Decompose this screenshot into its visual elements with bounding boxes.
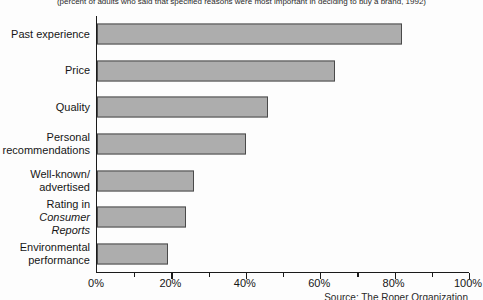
category-label: Personalrecommendations xyxy=(0,126,90,163)
bar-row xyxy=(97,235,469,272)
category-label: Environmentalperformance xyxy=(0,235,90,272)
bar xyxy=(97,60,335,81)
category-label: Rating inConsumer Reports xyxy=(0,199,90,236)
category-label: Price xyxy=(0,53,90,90)
category-label: Quality xyxy=(0,89,90,126)
bar-row xyxy=(97,89,469,126)
plot-area xyxy=(96,16,469,273)
bar-row xyxy=(97,53,469,90)
source-note: Source: The Roper Organization xyxy=(96,292,468,300)
bar-row xyxy=(97,162,469,199)
bar-row xyxy=(97,16,469,53)
x-axis-labels: 0%20%40%60%80%100% xyxy=(96,277,468,291)
chart-subtitle: (percent of adults who said that specifi… xyxy=(0,0,483,7)
category-labels: Past experiencePriceQualityPersonalrecom… xyxy=(0,16,90,272)
x-axis-tick-label: 100% xyxy=(454,277,482,289)
bar xyxy=(97,243,168,264)
bar-row xyxy=(97,126,469,163)
bar xyxy=(97,207,186,228)
x-axis-tick-label: 20% xyxy=(159,277,181,289)
x-axis-tick-label: 0% xyxy=(88,277,104,289)
bar xyxy=(97,133,246,154)
category-label: Past experience xyxy=(0,16,90,53)
x-axis-tick-label: 80% xyxy=(383,277,405,289)
x-axis-tick-label: 60% xyxy=(308,277,330,289)
bar xyxy=(97,97,268,118)
x-axis-tick-label: 40% xyxy=(234,277,256,289)
bar xyxy=(97,24,402,45)
category-label: Well-known/advertised xyxy=(0,162,90,199)
bar-row xyxy=(97,199,469,236)
figure: (percent of adults who said that specifi… xyxy=(0,0,483,300)
bar xyxy=(97,170,194,191)
